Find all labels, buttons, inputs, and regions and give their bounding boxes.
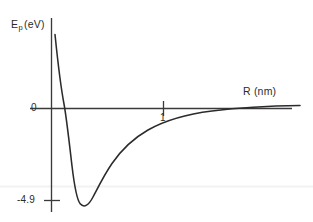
y-axis-label-unit: (eV) (23, 18, 45, 30)
potential-energy-curve (55, 35, 300, 206)
y-axis-label: Ep(eV) (11, 19, 45, 32)
x-axis-label: R (nm) (243, 86, 276, 97)
potential-energy-figure: Ep(eV) R (nm) 0 -4.9 1 (0, 0, 313, 222)
x-tick-label-one: 1 (160, 113, 166, 123)
y-tick-label-zero: 0 (31, 103, 37, 113)
y-tick-label-minimum: -4.9 (17, 195, 35, 205)
potential-energy-plot (0, 0, 313, 222)
